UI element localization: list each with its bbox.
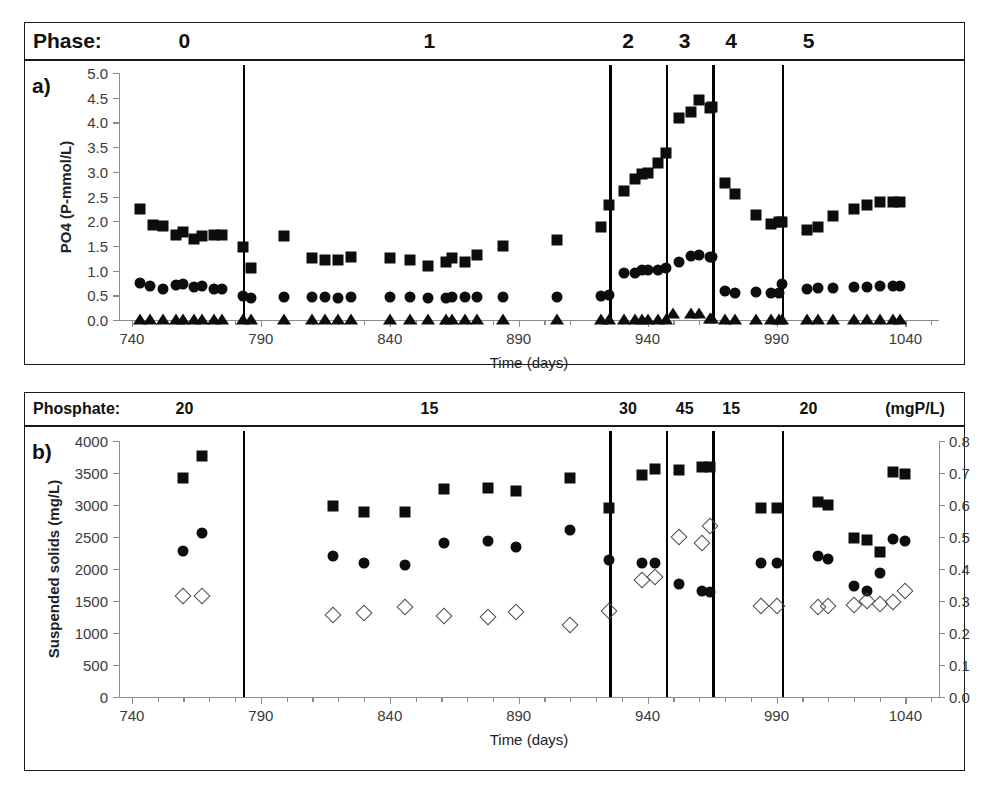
y-tick [113,246,119,247]
x-tick-minor [725,697,726,702]
x-tick-minor [802,697,803,702]
x-tick-minor [570,697,571,702]
figure-root: Phase: 012345 a) 0.00.51.01.52.02.53.03.… [0,0,989,793]
data-point-filled-triangle [244,313,258,324]
y-tick-label: 2.0 [87,213,108,230]
data-point-filled-triangle [143,313,157,324]
data-point-filled-square [384,253,395,264]
data-point-filled-square [874,197,885,208]
data-point-filled-circle [482,535,493,546]
data-point-open-diamond [355,605,372,622]
data-point-filled-triangle [602,313,616,324]
data-point-open-diamond [693,535,710,552]
data-point-filled-triangle [775,313,789,324]
x-tick-label: 1040 [889,330,922,347]
data-point-filled-circle [756,558,767,569]
phosphate-banner: Phosphate: (mgP/L) 201530451520 [24,392,965,426]
x-tick-minor [287,697,288,702]
y-axis-line-left [119,73,120,320]
y-tick [113,537,119,538]
data-point-filled-circle [637,557,648,568]
x-tick-minor [544,697,545,702]
banner-cell: 3 [679,29,691,53]
data-point-filled-square [446,253,457,264]
y-tick [113,601,119,602]
x-tick-label: 790 [248,707,273,724]
y2-tick [939,633,945,634]
data-point-filled-circle [446,292,457,303]
data-point-filled-circle [848,282,859,293]
data-point-filled-square [603,200,614,211]
data-point-filled-circle [384,292,395,303]
data-point-filled-circle [802,284,813,295]
x-tick-minor [441,697,442,702]
phase-divider [666,431,669,697]
y-tick-label: 500 [83,657,108,674]
x-tick-label: 890 [506,330,531,347]
y-tick [113,73,119,74]
data-point-filled-square [423,260,434,271]
data-point-filled-circle [245,292,256,303]
y-tick [113,98,119,99]
y2-tick-label: 0.1 [949,657,970,674]
banner-cell: 30 [619,400,637,418]
data-point-filled-circle [650,557,661,568]
x-tick-minor [364,697,365,702]
x-tick-label: 740 [119,330,144,347]
data-point-filled-square [652,157,663,168]
y-tick-label: 1.5 [87,237,108,254]
banner-cell: 1 [424,29,436,53]
data-point-filled-square [178,473,189,484]
x-tick-minor [570,320,571,325]
data-point-open-diamond [647,569,664,586]
x-tick-minor [416,697,417,702]
banner-cell: 15 [722,400,740,418]
data-point-filled-triangle [705,312,719,323]
phase-banner-label: Phase: [33,29,102,53]
data-point-filled-square [482,482,493,493]
y2-tick [939,569,945,570]
data-point-filled-square [438,484,449,495]
y2-tick [939,537,945,538]
phase-divider [243,431,246,697]
data-point-filled-square [279,231,290,242]
data-point-filled-triangle [749,313,763,324]
y2-tick-label: 0.8 [949,433,970,450]
panel-b-letter: b) [32,440,52,464]
x-tick-minor [880,697,881,702]
data-point-filled-circle [823,554,834,565]
x-tick-label: 940 [635,707,660,724]
data-point-filled-triangle [445,313,459,324]
y-tick-label: 0.0 [87,312,108,329]
data-point-filled-square [333,254,344,265]
data-point-filled-square [848,203,859,214]
data-point-filled-square [730,189,741,200]
data-point-filled-square [776,217,787,228]
data-point-filled-circle [861,282,872,293]
x-tick-label: 740 [119,707,144,724]
banner-cell: 0 [179,29,191,53]
data-point-filled-triangle [873,313,887,324]
data-point-filled-triangle [470,313,484,324]
data-point-filled-square [637,469,648,480]
data-point-filled-circle [887,533,898,544]
data-point-filled-square [812,222,823,233]
data-point-filled-circle [178,279,189,290]
data-point-filled-square [346,251,357,262]
y-tick-label: 5.0 [87,65,108,82]
data-point-filled-square [861,534,872,545]
data-point-open-diamond [435,607,452,624]
y-tick-label: 1000 [75,625,108,642]
data-point-filled-triangle [860,313,874,324]
data-point-filled-circle [874,281,885,292]
x-tick-minor [493,697,494,702]
data-point-filled-triangle [331,313,345,324]
y2-tick [939,473,945,474]
x-tick-minor [467,697,468,702]
y-tick-label: 0.5 [87,287,108,304]
data-point-open-diamond [701,517,718,534]
data-point-filled-square [771,503,782,514]
phase-divider [666,65,669,320]
data-point-filled-square [400,507,411,518]
data-point-filled-circle [144,281,155,292]
